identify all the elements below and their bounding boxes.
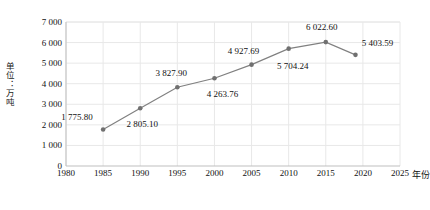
x-axis-tick-label: 1995 xyxy=(168,168,186,178)
data-point-value-label: 5 403.59 xyxy=(362,38,394,48)
x-axis-tick-label: 1990 xyxy=(131,168,149,178)
data-point-marker xyxy=(249,62,254,67)
data-point-marker xyxy=(353,53,358,58)
data-point-value-label: 2 805.10 xyxy=(126,119,158,129)
data-point-marker xyxy=(175,85,180,90)
data-point-marker xyxy=(101,127,106,132)
x-axis-tick-label: 1985 xyxy=(94,168,112,178)
data-point-value-label: 4 263.76 xyxy=(207,89,239,99)
x-axis-tick-label: 2005 xyxy=(243,168,261,178)
data-point-value-label: 6 022.60 xyxy=(306,22,338,32)
x-axis-unit-label: 年份 xyxy=(412,168,430,181)
data-point-value-label: 4 927.69 xyxy=(228,46,260,56)
data-point-marker xyxy=(212,76,217,81)
data-point-value-label: 3 827.90 xyxy=(156,68,188,78)
x-axis-tick-label: 2025 xyxy=(391,168,409,178)
x-axis-tick-label: 2010 xyxy=(280,168,298,178)
data-point-value-label: 5 704.24 xyxy=(277,61,309,71)
x-axis-tick-label: 2020 xyxy=(354,168,372,178)
data-point-marker xyxy=(286,46,291,51)
x-axis-tick-label: 2015 xyxy=(317,168,335,178)
data-point-value-label: 1 775.80 xyxy=(61,112,93,122)
data-point-marker xyxy=(323,40,328,45)
x-axis-tick-label: 1980 xyxy=(57,168,75,178)
x-axis-tick-label: 2000 xyxy=(205,168,223,178)
data-point-marker xyxy=(138,106,143,111)
